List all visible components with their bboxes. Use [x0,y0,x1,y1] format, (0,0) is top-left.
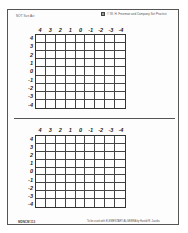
grid-cell [36,67,46,75]
grid-cell [46,152,56,160]
grid-cell [76,191,86,199]
grid-cell [66,160,76,168]
grid-cell [105,160,115,168]
publisher-logo-icon [101,12,105,16]
column-label: 2 [55,127,65,134]
grid-cell [76,168,86,176]
grid-cell [76,152,86,160]
grid-cell [95,144,105,152]
column-label: -1 [86,127,96,134]
grid-cell [66,59,76,67]
grid-cell [56,152,66,160]
grid-cell [36,183,46,191]
grid-cells [35,135,126,208]
grid-cell [105,51,115,59]
grid-cell [66,76,76,84]
grid-cell [85,100,95,108]
grid-cell [76,183,86,191]
row-label: -4 [26,101,34,109]
grid-cell [36,43,46,51]
grid-cell [115,43,125,51]
grid-cell [66,51,76,59]
column-labels: 43210-1-2-3-4 [35,27,126,34]
grid-cell [115,67,125,75]
grid-cell [76,35,86,43]
column-label: -4 [116,27,126,34]
grid-cell [115,84,125,92]
grid-cell [36,191,46,199]
grid-cell [95,67,105,75]
row-label: -1 [26,76,34,84]
footer-code: MDNCM 113 [18,220,35,224]
column-label: 0 [75,127,85,134]
grid-cell [85,59,95,67]
row-labels: 43210-1-2-3-4 [26,135,34,208]
grid-cell [36,35,46,43]
grid-cell [66,168,76,176]
column-label: 1 [65,127,75,134]
column-label: -3 [106,27,116,34]
grid-cell [95,152,105,160]
column-label: 0 [75,27,85,34]
grid-cell [105,100,115,108]
grid-cell [66,175,76,183]
row-label: 4 [26,34,34,42]
row-label: 4 [26,135,34,143]
grid-cell [66,35,76,43]
grid-cell [36,160,46,168]
grid-cell [46,199,56,207]
grid-cell [56,35,66,43]
grid-cell [115,136,125,144]
grid-cell [115,152,125,160]
grid-cell [115,191,125,199]
grid-cell [66,67,76,75]
grid-cell [115,76,125,84]
column-label: -1 [86,27,96,34]
grid-cell [66,100,76,108]
grid-cell [76,59,86,67]
grid-cell [56,168,66,176]
row-label: 3 [26,42,34,50]
grid-cell [46,67,56,75]
header-publisher: © W. H. Freeman and Company Set Practice [101,12,167,16]
grid-cell [56,76,66,84]
grid-cell [66,84,76,92]
grid-cell [85,183,95,191]
grid-cell [56,59,66,67]
row-label: 0 [26,167,34,175]
grid-cell [95,136,105,144]
footer-attribution: To be used with ELEMENTARY ALGEBRA by Ha… [87,220,160,223]
grid-cell [46,175,56,183]
grid-cell [115,92,125,100]
grid-cell [36,100,46,108]
column-label: 3 [45,127,55,134]
row-labels: 43210-1-2-3-4 [26,34,34,109]
grid-cell [66,144,76,152]
grid-cell [95,100,105,108]
grid-cell [56,160,66,168]
grid-cell [56,51,66,59]
row-label: 1 [26,159,34,167]
grid-cell [76,199,86,207]
grid-cell [56,84,66,92]
grid-cell [46,59,56,67]
grid-cell [115,168,125,176]
grid-cell [105,199,115,207]
grid-cell [95,160,105,168]
row-label: -4 [26,200,34,208]
grid-cell [115,199,125,207]
grid-cell [85,35,95,43]
grid-cell [85,76,95,84]
grid-cell [115,35,125,43]
grid-cell [46,168,56,176]
grid-cell [56,199,66,207]
grid-cell [36,175,46,183]
grid-cell [46,92,56,100]
grid-cell [76,51,86,59]
grid-cell [115,183,125,191]
grid-cell [36,144,46,152]
row-label: -2 [26,184,34,192]
row-label: 2 [26,51,34,59]
grid-cell [85,191,95,199]
grid-cell [56,183,66,191]
